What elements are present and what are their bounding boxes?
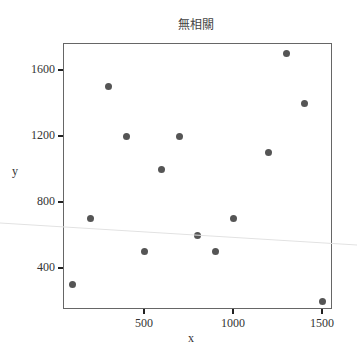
scan-artifact-line: [0, 0, 357, 354]
